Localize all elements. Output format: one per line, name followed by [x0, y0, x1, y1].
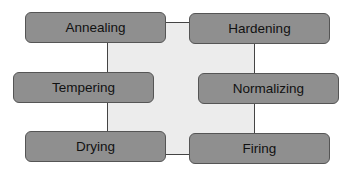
node-annealing: Annealing: [25, 12, 166, 43]
node-firing: Firing: [189, 133, 330, 164]
node-tempering: Tempering: [13, 72, 154, 103]
node-normalizing: Normalizing: [198, 73, 339, 104]
heat-treatment-diagram: Annealing Hardening Tempering Normalizin…: [0, 0, 349, 171]
node-drying: Drying: [25, 131, 166, 162]
node-hardening: Hardening: [189, 13, 330, 44]
